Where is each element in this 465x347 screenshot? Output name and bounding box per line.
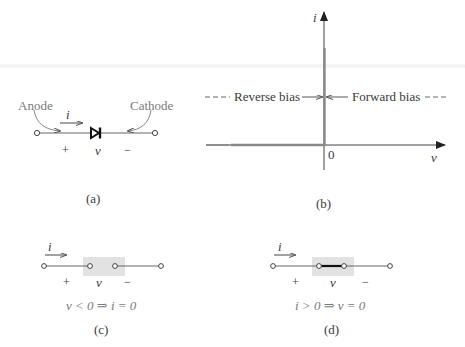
cathode-label: Cathode <box>130 99 173 112</box>
caption-b: (b) <box>316 197 331 210</box>
voltage-label: v <box>96 276 102 289</box>
plus-label: + <box>292 276 299 288</box>
condition-d: i > 0 ⇒ v = 0 <box>295 299 365 312</box>
current-label: i <box>66 108 70 121</box>
current-label: i <box>48 240 52 253</box>
x-axis-label: v <box>431 151 437 164</box>
current-label: i <box>278 240 282 253</box>
figure-graphics <box>0 0 465 347</box>
minus-label: − <box>124 144 131 156</box>
voltage-label: v <box>95 144 101 157</box>
forward-bias-label: Forward bias <box>350 90 422 103</box>
cathode-pointer-arrow-icon <box>128 110 151 131</box>
condition-c: v < 0 ⇒ i = 0 <box>66 299 136 312</box>
ideal-diode-figure: Anode Cathode i + v − (a) i v 0 Reverse … <box>0 0 465 347</box>
caption-a: (a) <box>86 192 100 205</box>
panel-d-short-circuit <box>271 255 393 276</box>
plus-label: + <box>63 276 70 288</box>
voltage-label: v <box>330 276 336 289</box>
origin-label: 0 <box>328 148 335 161</box>
panel-a-diode-symbol-circuit <box>34 110 158 139</box>
caption-d: (d) <box>324 323 339 336</box>
anode-label: Anode <box>18 99 53 112</box>
minus-label: − <box>124 276 131 288</box>
reverse-bias-label: Reverse bias <box>232 90 302 103</box>
minus-label: − <box>362 276 369 288</box>
caption-c: (c) <box>94 323 108 336</box>
diode-icon <box>91 128 100 139</box>
panel-c-open-circuit <box>42 255 164 276</box>
anode-pointer-arrow-icon <box>34 110 60 131</box>
plus-label: + <box>62 144 69 156</box>
y-axis-label: i <box>313 11 317 24</box>
